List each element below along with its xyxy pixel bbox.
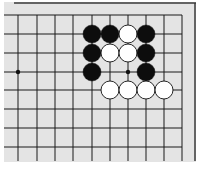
white-stone-icon xyxy=(137,81,155,99)
white-stone-icon xyxy=(101,81,119,99)
white-stone-icon xyxy=(119,44,137,62)
white-stone-icon xyxy=(155,81,173,99)
black-stone-icon xyxy=(137,25,155,43)
white-stone-icon xyxy=(119,25,137,43)
black-stone-icon xyxy=(101,25,119,43)
white-stone-icon xyxy=(119,81,137,99)
black-stone-icon xyxy=(83,25,101,43)
star-point-icon xyxy=(126,70,130,74)
go-board xyxy=(0,0,198,172)
white-stone-icon xyxy=(101,44,119,62)
black-stone-icon xyxy=(137,44,155,62)
black-stone-icon xyxy=(83,63,101,81)
star-point-icon xyxy=(16,70,20,74)
black-stone-icon xyxy=(83,44,101,62)
black-stone-icon xyxy=(137,63,155,81)
